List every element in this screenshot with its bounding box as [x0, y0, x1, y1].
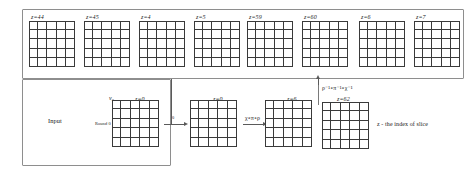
top-slice-grid-6 — [359, 21, 405, 67]
grid-cell — [368, 30, 377, 39]
grid-cell — [203, 30, 212, 39]
grid-cell — [442, 21, 451, 30]
grid-cell — [284, 109, 293, 118]
input-label: Input — [48, 118, 62, 124]
grid-cell — [176, 30, 185, 39]
grid-cell — [93, 39, 102, 48]
grid-cell — [102, 39, 111, 48]
grid-cell — [102, 49, 111, 58]
grid-cell — [311, 39, 320, 48]
grid-cell — [47, 49, 56, 58]
grid-cell — [350, 140, 359, 149]
grid-cell — [247, 30, 256, 39]
grid-cell — [396, 58, 405, 67]
grid-cell — [432, 21, 441, 30]
diagram-canvas: z=44 z=45 z=4 z=5 z=59 z=60 z=6 z=7 Inpu… — [0, 0, 469, 178]
grid-cell — [414, 49, 423, 58]
grid-cell — [66, 39, 75, 48]
grid-cell — [368, 21, 377, 30]
grid-cell — [293, 119, 302, 128]
grid-cell — [112, 100, 121, 109]
grid-cell — [140, 128, 149, 137]
grid-cell — [275, 49, 284, 58]
grid-cell — [359, 39, 368, 48]
grid-cell — [112, 109, 121, 118]
grid-cell — [84, 39, 93, 48]
grid-cell — [377, 39, 386, 48]
grid-cell — [29, 39, 38, 48]
grid-cell — [442, 39, 451, 48]
grid-cell — [222, 21, 231, 30]
grid-cell — [194, 58, 203, 67]
grid-cell — [320, 39, 329, 48]
grid-cell — [148, 58, 157, 67]
grid-cell — [121, 21, 130, 30]
grid-cell — [265, 21, 274, 30]
grid-cell — [47, 30, 56, 39]
grid-cell — [303, 109, 312, 118]
grid-cell — [320, 49, 329, 58]
grid-cell — [341, 130, 350, 139]
grid-cell — [222, 39, 231, 48]
grid-cell — [284, 21, 293, 30]
grid-cell — [339, 58, 348, 67]
top-slice-label-6: z=6 — [361, 14, 371, 20]
grid-cell — [121, 58, 130, 67]
grid-cell — [176, 21, 185, 30]
grid-cell — [284, 30, 293, 39]
grid-cell — [157, 49, 166, 58]
grid-cell — [112, 128, 121, 137]
grid-cell — [320, 30, 329, 39]
grid-cell — [102, 30, 111, 39]
grid-cell — [102, 58, 111, 67]
grid-cell — [432, 30, 441, 39]
grid-cell — [339, 49, 348, 58]
grid-cell — [414, 30, 423, 39]
grid-cell — [423, 49, 432, 58]
legend-note: z - the index of slice — [377, 121, 428, 127]
grid-cell — [359, 21, 368, 30]
grid-cell — [322, 121, 331, 130]
grid-cell — [194, 30, 203, 39]
grid-cell — [231, 39, 240, 48]
grid-cell — [176, 58, 185, 67]
grid-cell — [203, 58, 212, 67]
grid-cell — [432, 49, 441, 58]
grid-cell — [228, 100, 237, 109]
grid-cell — [38, 49, 47, 58]
grid-cell — [377, 21, 386, 30]
grid-cell — [194, 49, 203, 58]
grid-cell — [359, 58, 368, 67]
grid-cell — [341, 121, 350, 130]
grid-cell — [190, 100, 199, 109]
grid-cell — [231, 30, 240, 39]
grid-cell — [331, 102, 340, 111]
grid-cell — [190, 119, 199, 128]
grid-cell — [112, 58, 121, 67]
round-label: Round 0 — [95, 122, 111, 126]
grid-cell — [377, 58, 386, 67]
grid-cell — [84, 49, 93, 58]
grid-cell — [150, 100, 159, 109]
grid-cell — [377, 49, 386, 58]
grid-cell — [209, 109, 218, 118]
grid-cell — [121, 30, 130, 39]
grid-cell — [341, 111, 350, 120]
grid-cell — [350, 111, 359, 120]
grid-cell — [38, 39, 47, 48]
grid-cell — [66, 58, 75, 67]
top-slice-label-0: z=44 — [31, 14, 44, 20]
grid-cell — [330, 21, 339, 30]
grid-cell — [148, 49, 157, 58]
grid-cell — [293, 128, 302, 137]
grid-cell — [274, 138, 283, 147]
grid-cell — [199, 128, 208, 137]
top-slice-label-1: z=45 — [86, 14, 99, 20]
grid-cell — [256, 21, 265, 30]
grid-cell — [140, 109, 149, 118]
grid-cell — [228, 109, 237, 118]
grid-cell — [218, 128, 227, 137]
grid-cell — [377, 30, 386, 39]
grid-cell — [209, 100, 218, 109]
grid-cell — [284, 49, 293, 58]
